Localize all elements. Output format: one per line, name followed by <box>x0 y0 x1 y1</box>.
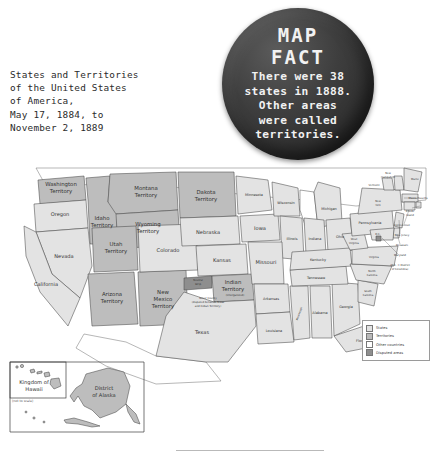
label-west-virginia: West <box>351 238 357 241</box>
label-hawaii: Kingdom of <box>19 379 49 386</box>
label-montana-territory-2: Territory <box>134 192 158 199</box>
label-alaska: District <box>95 385 114 391</box>
label-louisiana: Louisiana <box>266 329 283 333</box>
label-washington-territory: Washington <box>45 181 77 188</box>
legend-item-disputed-areas: Disputed areas <box>366 349 426 356</box>
label-greer-county: Greer County <box>199 297 217 300</box>
label-tennessee: Tennessee <box>306 276 325 280</box>
label-new-mexico-territory: New <box>157 289 169 295</box>
label-wisconsin: Wisconsin <box>277 201 294 205</box>
label-nevada: Nevada <box>54 253 73 259</box>
label-kentucky: Kentucky <box>310 258 326 262</box>
legend-label-other-countries: Other countries <box>376 343 404 347</box>
label-arizona-territory-2: Territory <box>100 298 124 305</box>
state-georgia <box>332 282 360 336</box>
island-maui <box>44 372 50 377</box>
footer-rule <box>176 450 324 451</box>
aleutian-dot-1 <box>25 411 27 413</box>
label-vermont: Vermont <box>369 184 380 187</box>
label-pennsylvania: Pennsylvania <box>359 221 382 225</box>
label-texas: Texas <box>194 329 209 335</box>
label-illinois: Illinois <box>286 237 297 241</box>
map-fact-badge: MAP FACT There were 38 states in 1888. O… <box>222 8 374 160</box>
badge-fact-text: There were 38 states in 1888. Other area… <box>244 70 351 142</box>
state-indiana <box>304 218 326 254</box>
label-greer-county-2: (disputed between Texas <box>192 301 225 304</box>
legend-swatch-territories <box>366 333 373 340</box>
label-new-mexico-territory-2: Mexico <box>154 296 173 302</box>
label-minnesota: Minnesota <box>245 193 263 197</box>
label-washington-territory-2: Territory <box>49 188 73 195</box>
label-utah-territory-2: Territory <box>104 248 128 255</box>
label-indian-territory-2: Territory <box>221 286 245 293</box>
legend-item-other-countries: Other countries <box>366 341 426 348</box>
label-iowa: Iowa <box>254 225 266 231</box>
label-dakota-territory-2: Territory <box>194 196 218 203</box>
label-missouri: Missouri <box>256 259 277 265</box>
state-vermont <box>382 178 394 190</box>
label-nebraska: Nebraska <box>196 229 220 235</box>
label-montana-territory: Montana <box>134 185 158 191</box>
label-idaho-territory: Idaho <box>94 215 109 221</box>
state-dakota-territory <box>178 172 236 218</box>
island-kauai <box>20 364 23 367</box>
map-page: States and Territories of the United Sta… <box>0 0 437 454</box>
label-georgia: Georgia <box>339 305 353 309</box>
legend-label-disputed-areas: Disputed areas <box>376 351 403 355</box>
label-maryland: Maryland <box>394 254 406 257</box>
legend-item-territories: Territories <box>366 333 426 340</box>
island-molokai <box>37 371 42 374</box>
island-oahu <box>30 369 35 373</box>
aleutian-dot-2 <box>33 417 35 419</box>
label-kansas: Kansas <box>213 257 231 263</box>
label-dc-note-2: of Columbia) <box>392 268 409 271</box>
aleutian-dot-3 <box>43 421 45 423</box>
label-michigan: Michigan <box>321 207 337 211</box>
label-maine: Maine <box>411 178 419 181</box>
label-new-mexico-territory-3: Territory <box>151 303 175 310</box>
legend-item-states: States <box>366 325 426 332</box>
label-wyoming-territory: Wyoming <box>135 221 160 228</box>
label-dc-note: (D.C. = District <box>390 264 410 267</box>
state-louisiana <box>256 312 294 344</box>
label-hawaii-2: Hawaii <box>25 386 42 392</box>
label-new-hampshire: New <box>385 172 392 175</box>
alaska-panhandle <box>126 404 140 424</box>
label-ohio: Ohio <box>336 235 344 239</box>
label-neutral-strip-2: Strip <box>195 283 201 286</box>
label-north-carolina: North <box>368 270 376 273</box>
label-indiana: Indiana <box>309 237 322 241</box>
badge-word-map: MAP <box>278 25 318 46</box>
label-utah-territory: Utah <box>110 241 123 247</box>
label-idaho-territory-2: Territory <box>90 222 114 229</box>
insets-svg: .ist{fill:#bdbdbd;stroke:#4a4a4a;stroke-… <box>4 348 186 444</box>
legend-swatch-disputed-areas <box>366 349 373 356</box>
badge-word-fact: FACT <box>271 46 325 68</box>
state-south-carolina <box>358 280 378 306</box>
label-new-york-2: York <box>375 204 381 207</box>
label-delaware: Delaware <box>396 244 409 247</box>
label-alabama: Alabama <box>312 311 327 315</box>
label-hawaii-note: (not to scale) <box>12 399 33 403</box>
label-dc-marker: D.C. <box>375 233 381 236</box>
label-connecticut: Connecticut <box>394 224 410 227</box>
legend-label-states: States <box>376 326 387 330</box>
label-oregon: Oregon <box>51 211 70 218</box>
marker-dc <box>376 236 381 241</box>
aleutian-islands <box>64 418 100 427</box>
label-south-carolina: South <box>364 290 372 293</box>
label-greer-county-3: and Indian Territory) <box>195 305 221 308</box>
label-indian-territory: Indian <box>225 279 242 285</box>
legend-swatch-states <box>366 325 373 332</box>
label-new-york: New <box>375 200 382 203</box>
map-insets: .ist{fill:#bdbdbd;stroke:#4a4a4a;stroke-… <box>4 348 186 444</box>
label-rhode-island: Rhode <box>406 210 415 213</box>
legend-swatch-other-countries <box>366 341 373 348</box>
label-dakota-territory: Dakota <box>196 189 215 195</box>
state-rhode-island <box>416 202 421 208</box>
label-wyoming-territory-2: Territory <box>136 228 160 235</box>
legend-label-territories: Territories <box>376 334 394 338</box>
label-california: California <box>34 281 58 287</box>
map-legend: States Territories Other countries Dispu… <box>362 320 430 361</box>
island-niihau <box>16 366 18 368</box>
